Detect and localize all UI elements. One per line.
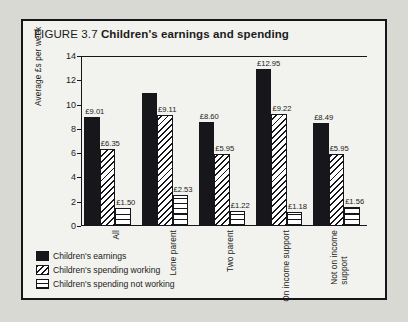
bar-spnot bbox=[173, 195, 189, 226]
bar-value-label: £12.95 bbox=[257, 59, 280, 68]
legend-item: Children's earnings bbox=[36, 249, 175, 263]
bar-value-label: £1.22 bbox=[231, 201, 250, 210]
bar-spnot bbox=[344, 207, 360, 226]
bar-spwork bbox=[214, 154, 230, 226]
bar-value-label: £6.35 bbox=[101, 139, 120, 148]
legend-swatch-spnot bbox=[36, 279, 49, 290]
bar-value-label: £5.95 bbox=[215, 144, 234, 153]
legend-item: Children's spending not working bbox=[36, 277, 175, 291]
bar-value-label: £5.95 bbox=[330, 144, 349, 153]
y-axis-tick-label: 10 bbox=[66, 100, 76, 110]
y-axis-label: Average £s per week bbox=[34, 0, 43, 106]
x-axis-category-label: On income support bbox=[282, 230, 292, 302]
y-axis-tick-label: 12 bbox=[66, 75, 76, 85]
bar-group: £12.95£9.22£1.18On income support bbox=[253, 56, 310, 226]
figure-container: FIGURE 3.7 Children's earnings and spend… bbox=[21, 19, 387, 300]
figure-number: FIGURE 3.7 bbox=[34, 28, 98, 40]
legend-label: Children's spending working bbox=[53, 265, 160, 275]
y-axis-tick-label: 0 bbox=[71, 221, 76, 231]
x-axis-category-label: All bbox=[111, 230, 121, 240]
bar-value-label: £1.50 bbox=[116, 198, 135, 207]
bar-value-label: £8.49 bbox=[314, 113, 333, 122]
bar-spwork bbox=[329, 154, 345, 226]
bar-earn bbox=[256, 69, 272, 226]
bar-value-label: £8.60 bbox=[200, 112, 219, 121]
bar-value-label: £9.01 bbox=[85, 107, 104, 116]
legend-swatch-earn bbox=[36, 251, 49, 262]
y-axis-tick-label: 6 bbox=[71, 148, 76, 158]
bar-earn bbox=[84, 117, 100, 226]
figure-name: Children's earnings and spending bbox=[101, 28, 289, 40]
bar-value-label: £9.11 bbox=[158, 105, 176, 114]
y-axis-tick-mark bbox=[77, 226, 81, 227]
bar-earn bbox=[313, 123, 329, 226]
bar-earn bbox=[199, 122, 215, 226]
legend-label: Children's spending not working bbox=[53, 279, 175, 289]
bar-value-label: £1.18 bbox=[288, 202, 307, 211]
bar-spwork bbox=[271, 114, 287, 226]
bar-value-label: £1.56 bbox=[345, 197, 364, 206]
y-axis-tick-label: 2 bbox=[71, 197, 76, 207]
bar-value-label: £2.53 bbox=[174, 185, 193, 194]
bar-spnot bbox=[115, 208, 131, 226]
y-axis-tick-label: 8 bbox=[71, 124, 76, 134]
legend-swatch-spwork bbox=[36, 265, 49, 276]
bar-spwork bbox=[100, 149, 116, 226]
x-axis-category-label: Two parent bbox=[225, 230, 235, 272]
bar-group: £8.49£5.95£1.56Not on incomesupport bbox=[310, 56, 367, 226]
bar-spwork bbox=[157, 115, 173, 226]
y-axis-tick-label: 4 bbox=[71, 172, 76, 182]
bar-value-label: £9.22 bbox=[272, 104, 291, 113]
figure-title: FIGURE 3.7 Children's earnings and spend… bbox=[34, 28, 289, 40]
bar-spnot bbox=[230, 211, 246, 226]
bar-group: £9.11£2.53Lone parent bbox=[138, 56, 195, 226]
y-axis-tick-label: 14 bbox=[66, 51, 76, 61]
chart-plot-area: Average £s per week 02468101214 £9.01£6.… bbox=[81, 56, 367, 226]
legend-label: Children's earnings bbox=[53, 251, 126, 261]
legend-item: Children's spending working bbox=[36, 263, 175, 277]
bar-group: £9.01£6.35£1.50All bbox=[81, 56, 138, 226]
bar-earn bbox=[142, 93, 158, 226]
bar-spnot bbox=[287, 212, 303, 226]
chart-legend: Children's earningsChildren's spending w… bbox=[36, 249, 175, 291]
bar-group: £8.60£5.95£1.22Two parent bbox=[195, 56, 252, 226]
x-axis-category-label: Not on incomesupport bbox=[330, 230, 349, 285]
